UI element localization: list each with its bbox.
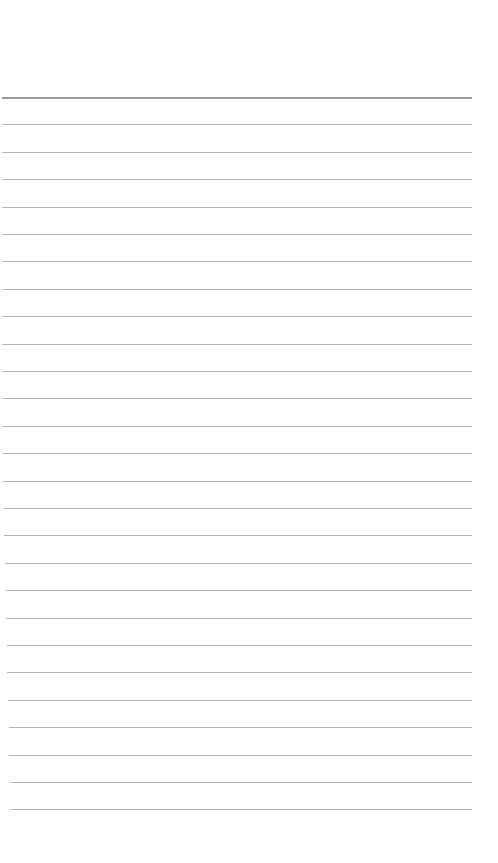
- ruled-line: [7, 672, 472, 673]
- ruled-line: [5, 563, 472, 564]
- ruled-line: [4, 508, 472, 509]
- ruled-line: [2, 207, 472, 208]
- ruled-line: [2, 316, 472, 317]
- ruled-line: [2, 234, 472, 235]
- ruled-line: [10, 809, 472, 810]
- ruled-line: [2, 289, 472, 290]
- ruled-line: [2, 97, 472, 99]
- ruled-line: [2, 179, 472, 180]
- ruled-line: [9, 755, 472, 756]
- ruled-line: [2, 344, 472, 345]
- ruled-line: [8, 700, 472, 701]
- ruled-line: [7, 645, 472, 646]
- ruled-line: [6, 590, 472, 591]
- ruled-line: [2, 152, 472, 153]
- ruled-line: [2, 426, 472, 427]
- lined-paper-sheet: [0, 0, 498, 863]
- ruled-line: [3, 481, 472, 482]
- ruled-line: [2, 261, 472, 262]
- ruled-line: [2, 371, 472, 372]
- ruled-line: [6, 618, 472, 619]
- ruled-line: [9, 727, 472, 728]
- ruled-line: [2, 124, 472, 125]
- ruled-line: [2, 398, 472, 399]
- ruled-line: [10, 782, 472, 783]
- ruled-line: [4, 535, 472, 536]
- ruled-line: [3, 453, 472, 454]
